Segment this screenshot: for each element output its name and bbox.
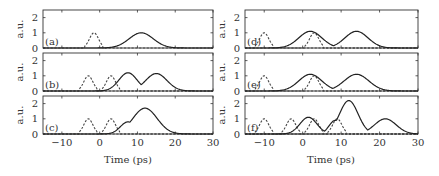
y-tick-label: 1 bbox=[234, 113, 240, 124]
dashed-input-pulse bbox=[43, 119, 213, 134]
x-tick-label: 30 bbox=[412, 137, 425, 148]
x-tick-label: 0 bbox=[299, 137, 305, 148]
solid-output-pulse bbox=[245, 31, 418, 48]
y-axis-label: a.u. bbox=[14, 20, 25, 39]
panel-label: (a) bbox=[45, 36, 59, 47]
dashed-input-pulse bbox=[43, 76, 213, 91]
dashed-input-pulse bbox=[245, 76, 418, 91]
y-tick-label: 2 bbox=[234, 55, 240, 66]
x-tick-label: 0 bbox=[96, 137, 102, 148]
y-tick-label: 1 bbox=[32, 70, 38, 81]
x-axis-label-right: Time (ps) bbox=[307, 154, 355, 165]
panel-b: 012a.u.(b) bbox=[14, 53, 213, 97]
y-tick-label: 2 bbox=[32, 98, 38, 109]
solid-output-pulse bbox=[245, 101, 418, 134]
panel-e: 012a.u.(e) bbox=[216, 53, 418, 97]
solid-output-pulse bbox=[245, 74, 418, 91]
y-tick-label: 2 bbox=[234, 98, 240, 109]
y-tick-label: 1 bbox=[234, 27, 240, 38]
x-axis-label-left: Time (ps) bbox=[104, 154, 152, 165]
y-tick-label: 2 bbox=[32, 12, 38, 23]
panel-f: −100102030012a.u.(f) bbox=[216, 96, 424, 148]
solid-output-pulse bbox=[43, 33, 213, 48]
solid-output-pulse bbox=[43, 73, 213, 91]
y-tick-label: 0 bbox=[32, 86, 38, 97]
x-tick-label: −10 bbox=[51, 137, 72, 148]
x-tick-label: 20 bbox=[373, 137, 386, 148]
panel-d: 012a.u.(d) bbox=[216, 10, 418, 54]
y-tick-label: 2 bbox=[32, 55, 38, 66]
y-axis-label: a.u. bbox=[216, 106, 227, 125]
dashed-input-pulse bbox=[43, 76, 213, 91]
panel-label: (e) bbox=[247, 79, 261, 90]
axes-frame bbox=[43, 10, 213, 48]
panel-c: −100102030012a.u.(c) bbox=[14, 96, 219, 148]
panel-label: (d) bbox=[247, 36, 261, 47]
y-tick-label: 1 bbox=[32, 113, 38, 124]
y-tick-label: 0 bbox=[32, 43, 38, 54]
y-tick-label: 0 bbox=[234, 129, 240, 140]
y-tick-label: 1 bbox=[32, 27, 38, 38]
dashed-input-pulse bbox=[43, 119, 213, 134]
y-tick-label: 1 bbox=[234, 70, 240, 81]
x-tick-label: 20 bbox=[169, 137, 182, 148]
figure-panels: 012a.u.(a)012a.u.(b)−100102030012a.u.(c)… bbox=[0, 0, 439, 176]
y-tick-label: 0 bbox=[32, 129, 38, 140]
dashed-input-pulse bbox=[245, 76, 418, 91]
x-tick-label: 10 bbox=[335, 137, 348, 148]
dashed-input-pulse bbox=[245, 33, 418, 48]
panel-label: (c) bbox=[45, 122, 59, 133]
x-tick-label: 10 bbox=[131, 137, 144, 148]
panel-label: (b) bbox=[45, 79, 59, 90]
x-tick-label: −10 bbox=[254, 137, 275, 148]
y-axis-label: a.u. bbox=[14, 106, 25, 125]
y-tick-label: 0 bbox=[234, 86, 240, 97]
y-tick-label: 2 bbox=[234, 12, 240, 23]
panel-label: (f) bbox=[247, 122, 259, 133]
dashed-input-pulse bbox=[245, 33, 418, 48]
axes-frame bbox=[43, 53, 213, 91]
dashed-input-pulse bbox=[43, 33, 213, 48]
solid-output-pulse bbox=[43, 108, 213, 134]
axes-frame bbox=[43, 96, 213, 134]
y-tick-label: 0 bbox=[234, 43, 240, 54]
y-axis-label: a.u. bbox=[216, 20, 227, 39]
y-axis-label: a.u. bbox=[14, 63, 25, 82]
x-tick-label: 30 bbox=[207, 137, 220, 148]
panel-a: 012a.u.(a) bbox=[14, 10, 213, 54]
y-axis-label: a.u. bbox=[216, 63, 227, 82]
